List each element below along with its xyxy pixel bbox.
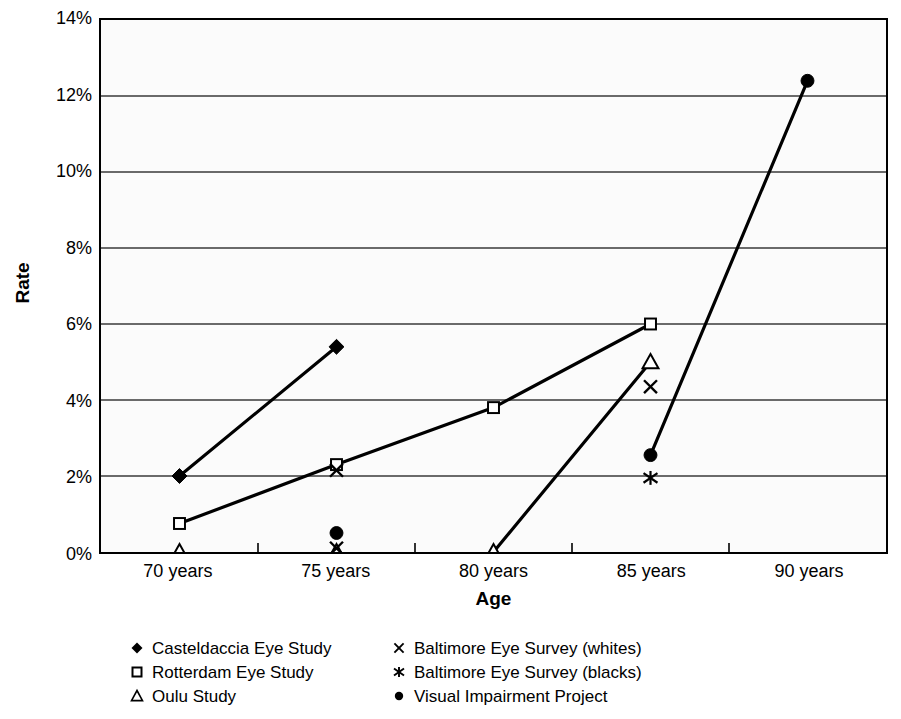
x-axis-title: Age [99,588,888,610]
data-point-open-square [331,459,342,470]
plot-area [99,18,888,554]
x-tick-label: 70 years [98,560,258,582]
y-axis-tick-labels: 14%12%10%8%6%4%2%0% [34,0,92,719]
plot-canvas [101,20,886,552]
legend-item[interactable]: Visual Impairment Project [390,684,642,708]
data-point-filled-circle [801,74,814,87]
cross-x-icon [390,639,408,657]
y-tick-label: 2% [36,468,92,486]
legend-item-label: Oulu Study [152,688,236,705]
legend-item-label: Casteldaccia Eye Study [152,640,332,657]
data-point-open-square [174,518,185,529]
chart-legend: Casteldaccia Eye StudyRotterdam Eye Stud… [128,636,768,708]
data-point-open-square [488,402,499,413]
legend-item[interactable]: Baltimore Eye Survey (blacks) [390,660,642,684]
chart-figure: Rate 14%12%10%8%6%4%2%0% 70 years75 year… [0,0,901,719]
x-tick-label: 75 years [256,560,416,582]
data-point-open-triangle [643,354,659,368]
series-line [494,362,651,552]
legend-item-label: Baltimore Eye Survey (whites) [414,640,642,657]
y-axis-title: Rate [12,253,34,313]
open-square-icon [128,663,146,681]
series-line [180,347,337,476]
legend-item[interactable]: Baltimore Eye Survey (whites) [390,636,642,660]
filled-circle-icon [390,687,408,705]
legend-item[interactable]: Casteldaccia Eye Study [128,636,332,660]
y-tick-label: 10% [36,162,92,180]
series-line [180,324,651,524]
data-point-asterisk [644,471,658,485]
y-tick-label: 4% [36,392,92,410]
data-point-filled-circle [644,449,657,462]
y-tick-label: 14% [36,9,92,27]
legend-item[interactable]: Rotterdam Eye Study [128,660,332,684]
data-point-filled-circle [330,527,343,540]
x-axis-tick-labels: 70 years75 years80 years85 years90 years [99,560,888,590]
legend-item-label: Baltimore Eye Survey (blacks) [414,664,642,681]
series-line [651,81,808,455]
open-triangle-icon [128,687,146,705]
y-tick-label: 8% [36,239,92,257]
data-point-open-triangle [172,544,188,552]
y-tick-label: 0% [36,545,92,563]
y-tick-label: 12% [36,86,92,104]
x-tick-label: 85 years [571,560,731,582]
data-point-cross-x [644,380,657,393]
data-point-open-square [645,319,656,330]
legend-column-left: Casteldaccia Eye StudyRotterdam Eye Stud… [128,636,332,708]
filled-diamond-icon [128,639,146,657]
x-tick-label: 90 years [729,560,889,582]
legend-column-right: Baltimore Eye Survey (whites)Baltimore E… [390,636,642,708]
legend-item-label: Rotterdam Eye Study [152,664,314,681]
y-tick-label: 6% [36,315,92,333]
legend-item-label: Visual Impairment Project [414,688,607,705]
x-tick-label: 80 years [414,560,574,582]
asterisk-icon [390,663,408,681]
legend-item[interactable]: Oulu Study [128,684,332,708]
